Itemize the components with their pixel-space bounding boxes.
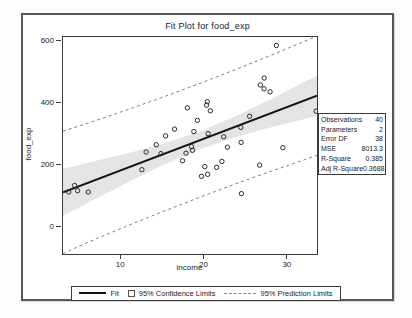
sas-fit-plot-figure: Fit Plot for food_exp 1020300200400600 f… [0,0,412,318]
scatter-point [203,164,207,168]
scatter-point [180,158,184,162]
stats-row-error-df: Error DF 38 [319,134,385,144]
legend-item-fit: Fit [79,289,118,298]
y-tick-label: 400 [26,98,54,108]
fit-line [63,96,317,193]
scatter-point [163,134,167,138]
plot-canvas [63,37,317,254]
stats-table: Observations 40 Parameters 2 Error DF 38… [318,113,386,175]
scatter-point [220,159,224,163]
y-tick-mark [56,102,61,103]
x-tick-mark [286,255,287,259]
scatter-point [172,127,176,131]
stats-row-mse: MSE 8013.3 [319,144,385,154]
scatter-point [281,145,285,149]
x-tick-mark [120,255,121,259]
scatter-point [185,106,189,110]
y-tick-label: 200 [26,160,54,170]
scatter-point [258,83,262,87]
fit-line-swatch-icon [79,292,106,294]
confidence-band-swatch-icon [128,290,135,297]
legend: Fit 95% Confidence Limits 95% Prediction… [0,280,412,301]
y-tick-mark [56,226,61,227]
y-axis-label-text: food_exp [24,128,33,161]
y-tick-mark [56,164,61,165]
scatter-point [199,174,203,178]
scatter-point [257,163,261,167]
scatter-point [262,76,266,80]
scatter-point [192,129,196,133]
legend-box: Fit 95% Confidence Limits 95% Prediction… [71,286,340,301]
legend-item-confidence-limits: 95% Confidence Limits [128,289,216,298]
scatter-point [208,109,212,113]
chart-title: Fit Plot for food_exp [23,21,392,31]
x-tick-mark [203,255,204,259]
scatter-point [195,118,199,122]
legend-item-prediction-limits: 95% Prediction Limits [224,289,332,298]
scatter-point [239,191,243,195]
scatter-point [205,172,209,176]
scatter-point [274,43,278,47]
plot-area [62,36,318,255]
scatter-point [268,90,272,94]
stats-row-r-square: R-Square 0.385 [319,154,385,164]
prediction-line-swatch-icon [224,293,256,294]
stats-row-adj-r-square: Adj R-Square 0.3688 [319,164,385,174]
scatter-point [214,165,218,169]
y-tick-label: 600 [26,36,54,46]
x-axis-label: income [62,263,317,272]
y-tick-mark [56,40,61,41]
y-tick-label: 0 [26,222,54,232]
scatter-point [225,145,229,149]
scatter-point [239,140,243,144]
scatter-point [262,87,266,91]
stats-row-parameters: Parameters 2 [319,125,385,135]
stats-row-observations: Observations 40 [319,115,385,125]
